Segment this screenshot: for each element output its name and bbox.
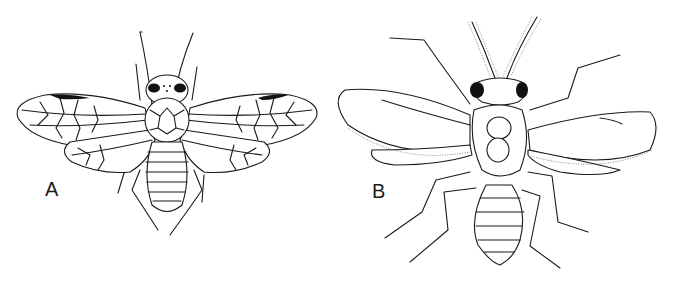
panel-label-a: A	[45, 178, 58, 201]
insect-a-drawing	[0, 0, 674, 281]
insect-b	[338, 17, 656, 268]
figure: A B	[0, 0, 674, 281]
panel-label-b: B	[372, 180, 385, 203]
insect-a	[17, 32, 317, 235]
